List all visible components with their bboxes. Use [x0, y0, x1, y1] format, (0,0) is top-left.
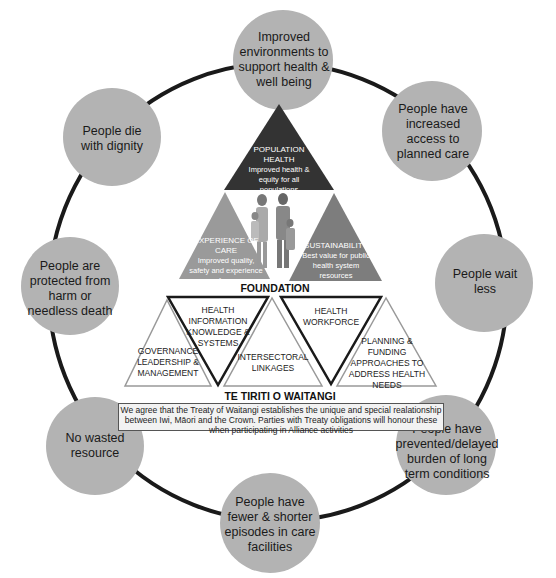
outcome-label-top-right: People have increased access to planned … [386, 94, 480, 170]
foundation-health-information-label: HEALTH INFORMATION KNOWLEDGE & SYSTEMS [180, 305, 256, 349]
treaty-statement-box: We agree that the Treaty of Waitangi est… [118, 403, 444, 431]
treaty-statement-text: We agree that the Treaty of Waitangi est… [121, 405, 442, 435]
foundation-planning-label: PLANNING & FUNDING APPROACHES TO ADDRESS… [344, 336, 430, 391]
experience-of-care-title: EXPERIENCE OF CARE [188, 236, 264, 256]
outcomes-framework-diagram: Improved environments to support health … [0, 0, 556, 578]
outcome-label-bottom: People have fewer & shorter episodes in … [220, 500, 320, 550]
sustainability-title: SUSTAINABILITY [298, 241, 374, 251]
treaty-heading: TE TIRITI O WAITANGI [200, 390, 360, 402]
population-health-title: POPULATION HEALTH [244, 145, 314, 165]
outcome-label-top: Improved environments to support health … [238, 22, 330, 98]
outcome-label-left: People are protected from harm or needle… [26, 258, 114, 320]
foundation-intersectoral-label: INTERSECTORAL LINKAGES [236, 352, 310, 374]
foundation-workforce-label: HEALTH WORKFORCE [298, 306, 364, 328]
outcome-label-top-left: People die with dignity [70, 122, 154, 156]
outcome-label-right: People wait less [445, 262, 525, 302]
sustainability-desc: Best value for public health system reso… [298, 251, 374, 281]
experience-of-care-text: EXPERIENCE OF CARE Improved quality, saf… [188, 236, 264, 286]
population-health-text: POPULATION HEALTH Improved health & equi… [244, 145, 314, 195]
foundation-governance-label: GOVERNANCE LEADERSHIP & MANAGEMENT [130, 346, 206, 379]
population-health-desc: Improved health & equity for all populat… [244, 165, 314, 195]
sustainability-text: SUSTAINABILITY Best value for public hea… [298, 241, 374, 281]
foundation-heading: FOUNDATION [230, 282, 320, 294]
outcome-label-bottom-left: No wasted resource [55, 428, 135, 464]
